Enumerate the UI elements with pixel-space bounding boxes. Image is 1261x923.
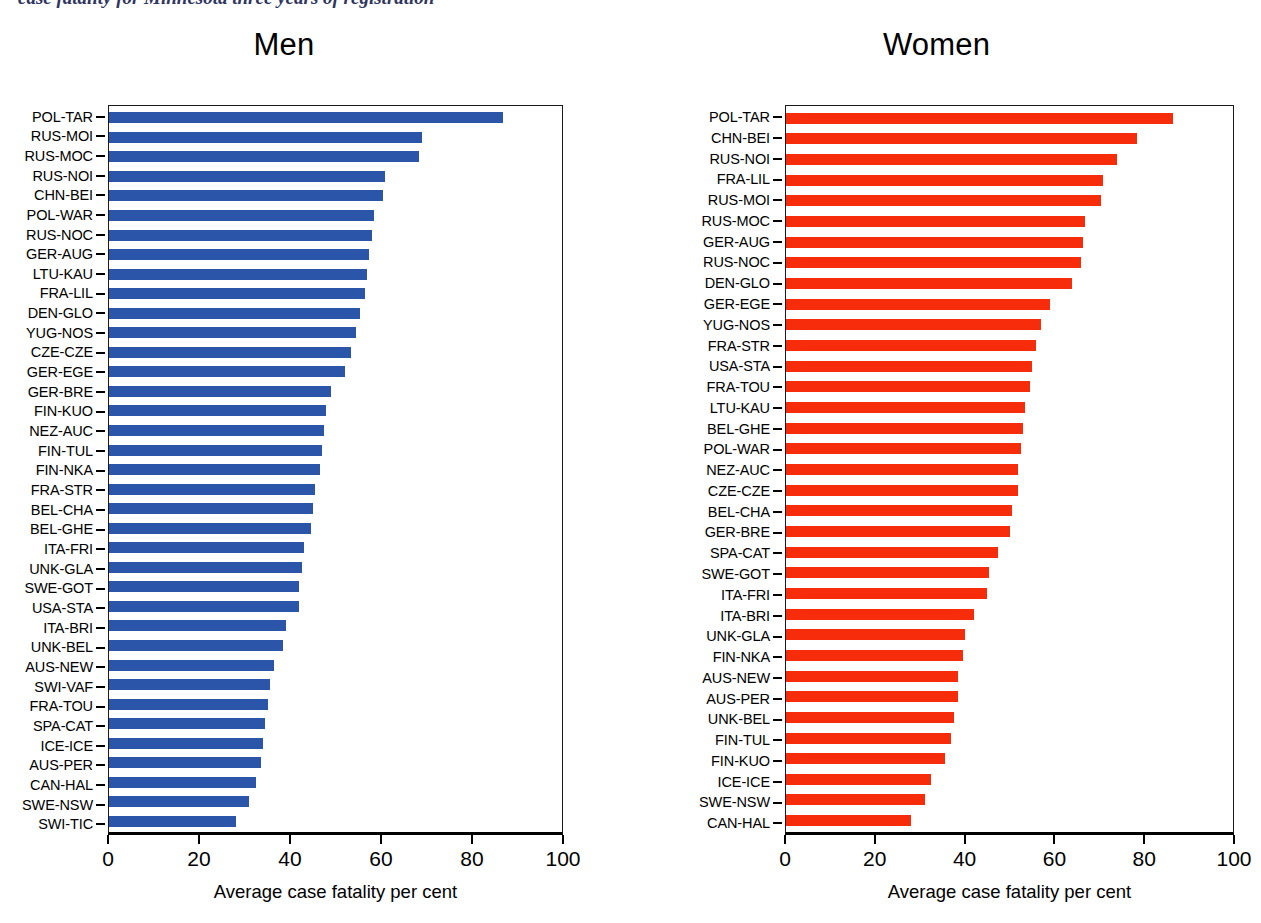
tick-mark-icon: [96, 175, 105, 177]
category-tick-men: SWE-GOT: [0, 579, 105, 599]
x-tick-mark: [1143, 835, 1145, 844]
category-tick-men: UNK-BEL: [0, 638, 105, 658]
category-tick-men: NEZ-AUC: [0, 422, 105, 442]
bar-row: [109, 460, 562, 480]
bar-row: [109, 812, 562, 832]
bar-rows-women: [786, 106, 1233, 832]
tick-mark-icon: [773, 781, 782, 783]
tick-mark-icon: [773, 386, 782, 388]
bar: [786, 629, 965, 640]
bar-row: [786, 149, 1233, 170]
tick-mark-icon: [773, 283, 782, 285]
bar: [109, 777, 256, 788]
tick-mark-icon: [96, 116, 105, 118]
bar-row: [786, 439, 1233, 460]
category-label: LTU-KAU: [33, 267, 93, 282]
bar: [786, 774, 931, 785]
category-label: POL-TAR: [709, 110, 770, 125]
bar: [109, 269, 367, 280]
bar: [109, 699, 268, 710]
tick-mark-icon: [96, 411, 105, 413]
bar-row: [109, 284, 562, 304]
bar-row: [786, 356, 1233, 377]
category-label: DEN-GLO: [705, 276, 770, 291]
category-tick-women: NEZ-AUC: [670, 460, 782, 481]
bar-row: [109, 245, 562, 265]
tick-mark-icon: [96, 470, 105, 472]
bar: [109, 718, 265, 729]
bar-row: [786, 521, 1233, 542]
tick-mark-icon: [96, 627, 105, 629]
category-label: FIN-NKA: [36, 463, 93, 478]
x-tick-label: 40: [278, 847, 301, 871]
x-tick-label: 100: [1216, 847, 1251, 871]
bar: [109, 738, 263, 749]
bar: [786, 712, 954, 723]
tick-mark-icon: [773, 636, 782, 638]
bar: [109, 132, 422, 143]
tick-mark-icon: [96, 293, 105, 295]
category-label: NEZ-AUC: [29, 424, 93, 439]
bar: [109, 112, 503, 123]
bar-row: [786, 273, 1233, 294]
bar: [786, 609, 974, 620]
category-tick-women: RUS-NOC: [670, 252, 782, 273]
bar-row: [109, 577, 562, 597]
bar: [786, 650, 963, 661]
category-tick-men: SPA-CAT: [0, 716, 105, 736]
category-label: GER-AUG: [703, 235, 770, 250]
plot-area-men: [108, 105, 563, 835]
bar-row: [786, 707, 1233, 728]
bar: [109, 347, 351, 358]
bar-row: [109, 499, 562, 519]
category-label: BEL-GHE: [707, 422, 770, 437]
tick-mark-icon: [96, 352, 105, 354]
category-tick-men: RUS-MOC: [0, 146, 105, 166]
tick-mark-icon: [773, 573, 782, 575]
x-ticks-men: 020406080100: [108, 835, 563, 844]
bar-row: [109, 186, 562, 206]
bar-row: [109, 167, 562, 187]
tick-mark-icon: [773, 366, 782, 368]
bar-row: [109, 323, 562, 343]
bar-row: [109, 714, 562, 734]
bar: [109, 366, 345, 377]
bar: [786, 588, 987, 599]
x-tick-mark: [380, 835, 382, 844]
category-label: GER-EGE: [704, 297, 770, 312]
bar: [109, 386, 331, 397]
category-label: UNK-BEL: [708, 712, 770, 727]
x-tick-mark: [471, 835, 473, 844]
bar: [109, 230, 372, 241]
tick-mark-icon: [773, 532, 782, 534]
tick-mark-icon: [96, 391, 105, 393]
bar: [786, 257, 1081, 268]
bar: [109, 757, 261, 768]
x-tick-label: 60: [369, 847, 392, 871]
bar: [109, 445, 322, 456]
bar-row: [786, 604, 1233, 625]
category-tick-women: FIN-TUL: [670, 730, 782, 751]
bar: [109, 464, 320, 475]
bar: [786, 794, 925, 805]
tick-mark-icon: [96, 253, 105, 255]
category-tick-men: RUS-NOC: [0, 225, 105, 245]
category-tick-men: ICE-ICE: [0, 736, 105, 756]
bar: [109, 796, 249, 807]
bar: [786, 815, 911, 826]
tick-mark-icon: [773, 511, 782, 513]
category-label: UNK-GLA: [29, 562, 93, 577]
category-label: FIN-KUO: [711, 754, 770, 769]
category-tick-men: RUS-MOI: [0, 127, 105, 147]
category-tick-men: GER-BRE: [0, 382, 105, 402]
bar-row: [786, 666, 1233, 687]
category-label: SPA-CAT: [33, 719, 93, 734]
tick-mark-icon: [773, 220, 782, 222]
category-tick-women: LTU-KAU: [670, 398, 782, 419]
category-tick-women: RUS-NOI: [670, 149, 782, 170]
category-label: FIN-TUL: [38, 444, 93, 459]
category-label: FIN-NKA: [713, 650, 770, 665]
bar: [786, 195, 1101, 206]
bar: [109, 581, 299, 592]
category-tick-men: FRA-STR: [0, 480, 105, 500]
